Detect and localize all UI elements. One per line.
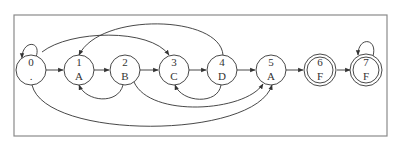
state-label: . [30, 70, 33, 82]
state-label: D [218, 70, 226, 82]
state-label: A [267, 70, 275, 82]
node-7-accepting: 7 F [350, 54, 382, 86]
state-id: 2 [122, 56, 128, 68]
state-label: C [170, 70, 177, 82]
state-label: F [363, 70, 369, 82]
node-3: 3 C [159, 55, 189, 85]
state-id: 0 [28, 56, 34, 68]
edge-4-3-bottom-arc [175, 85, 221, 99]
state-id: 7 [363, 56, 369, 68]
edge-2-1-bottom-arc [79, 85, 123, 99]
node-2: 2 B [110, 55, 140, 85]
edge-0-5-large-bottom-arc [32, 85, 272, 126]
node-1: 1 A [64, 55, 94, 85]
node-0: 0 . [16, 55, 46, 85]
state-id: 4 [219, 56, 225, 68]
state-label: A [75, 70, 83, 82]
edge-0-3-top-arc [42, 35, 169, 55]
node-4: 4 D [207, 55, 237, 85]
edge-2-5-bottom-arc [134, 82, 263, 107]
state-id: 6 [317, 56, 323, 68]
state-label: B [121, 70, 128, 82]
state-id: 5 [268, 56, 274, 68]
state-id: 1 [76, 56, 82, 68]
state-id: 3 [171, 56, 177, 68]
edge-4-1-top-arc [79, 24, 223, 55]
state-label: F [317, 70, 323, 82]
node-5: 5 A [256, 55, 286, 85]
state-diagram: 0 . 1 A 2 B 3 C 4 D 5 A 6 F 7 F [0, 0, 395, 143]
node-6-accepting: 6 F [304, 54, 336, 86]
